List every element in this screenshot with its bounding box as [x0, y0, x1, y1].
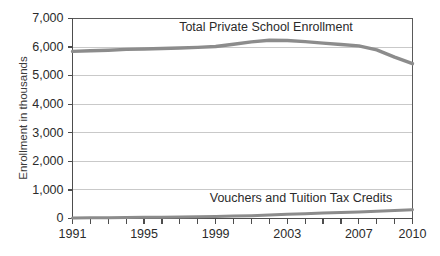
y-tick-label: 1,000	[32, 183, 63, 197]
x-tick-label: 2003	[273, 227, 301, 241]
series-label-2: Vouchers and Tuition Tax Credits	[210, 191, 393, 205]
series-line-2	[73, 210, 413, 218]
x-tick-label: 1995	[130, 227, 158, 241]
x-axis-tick-labels: 199119951999200320072010	[59, 227, 427, 241]
y-axis-ticks	[68, 19, 73, 219]
y-tick-label: 4,000	[32, 97, 63, 111]
y-tick-label: 6,000	[32, 40, 63, 54]
y-tick-label: 3,000	[32, 126, 63, 140]
chart-container: Enrollment in thousands 01,0002,0003,000…	[0, 0, 440, 256]
y-tick-label: 7,000	[32, 11, 63, 25]
series-label-1: Total Private School Enrollment	[179, 20, 353, 34]
x-axis-ticks	[73, 219, 413, 224]
y-axis-tick-labels: 01,0002,0003,0004,0005,0006,0007,000	[32, 11, 63, 225]
x-tick-label: 2010	[399, 227, 427, 241]
y-tick-label: 2,000	[32, 154, 63, 168]
x-tick-label: 1991	[59, 227, 87, 241]
x-tick-label: 1999	[202, 227, 230, 241]
x-tick-label: 2007	[345, 227, 373, 241]
y-tick-label: 0	[57, 211, 64, 225]
y-tick-label: 5,000	[32, 68, 63, 82]
series-line-1	[73, 40, 413, 63]
chart-plot: 01,0002,0003,0004,0005,0006,0007,000 199…	[0, 0, 440, 256]
